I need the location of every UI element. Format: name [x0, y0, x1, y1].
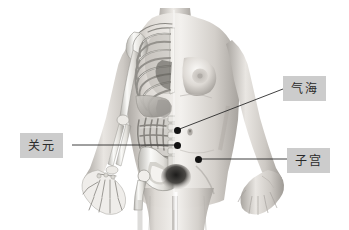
label-guanyuan[interactable]: 关元 [20, 133, 63, 158]
acupoint-dot-guanyuan[interactable] [174, 142, 181, 149]
label-zigong[interactable]: 子宫 [287, 148, 330, 173]
right-hand-skin [238, 170, 284, 215]
label-qihai-text: 气海 [291, 83, 319, 95]
pubic-shadow [161, 164, 191, 190]
acupoint-dot-qihai[interactable] [174, 127, 181, 134]
label-zigong-text: 子宫 [295, 155, 323, 167]
left-hand-skeleton [82, 170, 126, 214]
anatomy-illustration [0, 0, 349, 230]
acupoint-dot-zigong[interactable] [195, 156, 202, 163]
label-guanyuan-text: 关元 [28, 140, 56, 152]
label-qihai[interactable]: 气海 [283, 76, 326, 101]
acupoint-diagram: 气海 关元 子宫 [0, 0, 349, 230]
